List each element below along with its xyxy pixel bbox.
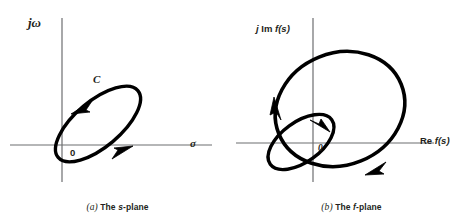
f-plane-vertical-axis-label-f: f(s) xyxy=(275,23,290,34)
f-plane-caption-index: (b) xyxy=(321,202,332,212)
f-plane-caption-the: The xyxy=(335,202,350,212)
panel-f-plane: j Im f(s) Re f(s) 0 (b) The f-plane xyxy=(234,0,469,221)
s-plane-contour-c xyxy=(43,73,152,175)
s-plane-graphic xyxy=(0,0,235,221)
s-plane-caption-word: -plane xyxy=(123,202,149,212)
f-plane-small-loop xyxy=(259,103,344,180)
s-plane-origin-label: 0 xyxy=(70,148,75,158)
f-plane-caption-word: -plane xyxy=(356,202,382,212)
f-plane-large-loop-arrow-bottom xyxy=(365,162,386,175)
panel-s-plane: jω σ C 0 (a) The s-plane xyxy=(0,0,235,221)
f-plane-origin-label: 0 xyxy=(318,144,323,154)
f-plane-caption: (b) The f-plane xyxy=(234,202,469,212)
s-plane-caption-the: The xyxy=(100,202,115,212)
s-plane-horizontal-axis-label: σ xyxy=(190,138,196,149)
s-plane-direction-arrow-lower xyxy=(112,146,133,159)
s-plane-caption-index: (a) xyxy=(86,202,97,212)
f-plane-vertical-axis-label-im: Im xyxy=(261,23,272,34)
f-plane-large-loop xyxy=(258,32,422,185)
f-plane-horizontal-axis-label-f: f(s) xyxy=(435,135,450,146)
s-plane-contour-label: C xyxy=(93,74,100,85)
f-plane-horizontal-axis-label: Re f(s) xyxy=(420,136,450,146)
f-plane-horizontal-axis-label-re: Re xyxy=(420,135,432,146)
figure-root: jω σ C 0 (a) The s-plane j Im f(s) xyxy=(0,0,469,221)
s-plane-caption: (a) The s-plane xyxy=(0,202,235,212)
f-plane-vertical-axis-label: j Im f(s) xyxy=(256,24,290,34)
s-plane-vertical-axis-label: jω xyxy=(28,16,41,29)
s-plane-direction-arrow-upper xyxy=(71,101,92,114)
